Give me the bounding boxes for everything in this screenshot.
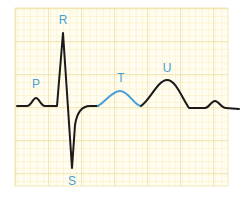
ecg-diagram: P R S T U bbox=[0, 0, 250, 199]
label-s: S bbox=[68, 174, 76, 188]
label-u: U bbox=[163, 61, 172, 75]
ecg-grid bbox=[15, 8, 228, 186]
label-r: R bbox=[59, 13, 68, 27]
label-t: T bbox=[117, 71, 125, 85]
label-p: P bbox=[32, 77, 40, 91]
